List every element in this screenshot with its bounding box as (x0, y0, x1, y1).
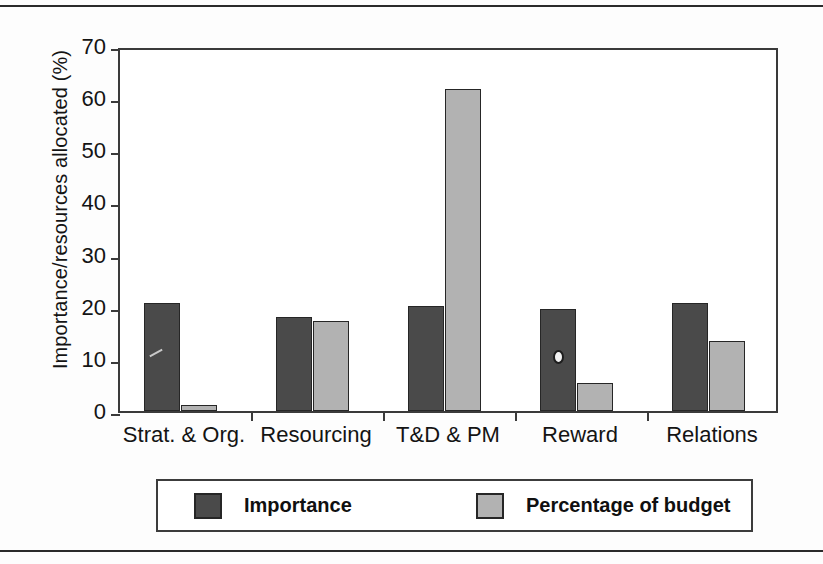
legend-item-importance: Importance (194, 481, 352, 530)
y-axis-tick: 50 (111, 153, 120, 155)
x-axis-category-label: Reward (514, 420, 646, 450)
bar-importance (276, 317, 312, 411)
y-axis-tick-label: 30 (82, 245, 106, 267)
bar-importance (408, 306, 444, 411)
y-axis-tick: 20 (111, 310, 120, 312)
scan-artifact-streak (149, 349, 162, 357)
y-axis-label: Importance/resources allocated (%) (49, 10, 72, 410)
y-axis-tick-label: 40 (82, 192, 106, 214)
bar-importance (672, 303, 708, 411)
legend-label-importance: Importance (244, 494, 352, 517)
bar-importance (144, 303, 180, 411)
bar-percentage-of-budget (577, 383, 613, 411)
y-axis-tick-label: 10 (82, 349, 106, 371)
plot-area: 010203040506070 (118, 48, 778, 413)
top-rule (0, 5, 823, 7)
bar-percentage-of-budget (313, 321, 349, 411)
y-axis-tick-label: 0 (94, 401, 106, 423)
bar-percentage-of-budget (709, 341, 745, 411)
bar-percentage-of-budget (181, 405, 217, 411)
y-axis-tick-label: 20 (82, 297, 106, 319)
legend-label-percentage-of-budget: Percentage of budget (526, 494, 730, 517)
x-axis-category-label: Relations (646, 420, 778, 450)
x-axis-category-label: Strat. & Org. (118, 420, 250, 450)
x-axis-category-label: Resourcing (250, 420, 382, 450)
x-axis-label-row: Strat. & Org.ResourcingT&D & PMRewardRel… (118, 420, 778, 454)
y-axis-tick: 30 (111, 258, 120, 260)
y-axis-tick-label: 50 (82, 140, 106, 162)
chart-legend: Importance Percentage of budget (156, 479, 753, 532)
legend-swatch-importance (194, 493, 222, 519)
y-axis-tick-label: 70 (82, 36, 106, 58)
y-axis-tick: 10 (111, 362, 120, 364)
legend-item-percentage-of-budget: Percentage of budget (476, 481, 730, 530)
figure-page: Importance/resources allocated (%) 01020… (0, 0, 823, 564)
bar-group-container (120, 50, 776, 411)
x-axis-category-label: T&D & PM (382, 420, 514, 450)
bar-percentage-of-budget (445, 89, 481, 411)
legend-swatch-percentage-of-budget (476, 493, 504, 519)
y-axis-tick: 40 (111, 205, 120, 207)
y-axis-tick: 0 (111, 414, 120, 416)
bottom-rule (0, 550, 823, 552)
y-axis-tick-label: 60 (82, 88, 106, 110)
y-axis-tick: 70 (111, 49, 120, 51)
bar-importance (540, 309, 576, 411)
bar-chart-figure: Importance/resources allocated (%) 01020… (0, 8, 823, 548)
scan-artifact-speck (553, 350, 564, 364)
y-axis-tick: 60 (111, 101, 120, 103)
